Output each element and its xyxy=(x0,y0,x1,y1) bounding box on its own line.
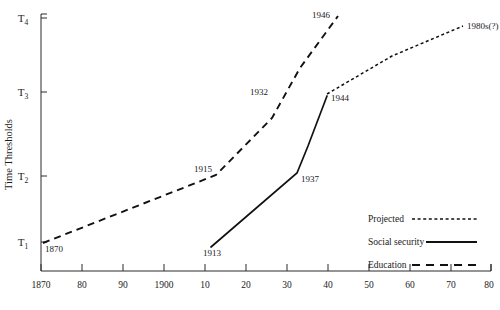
x-tick-label-5: 20 xyxy=(241,280,251,290)
x-tick-label-7: 40 xyxy=(323,280,333,290)
point-label-1915: 1915 xyxy=(194,164,213,174)
x-tick-label-9: 60 xyxy=(405,280,415,290)
y-tick-group: T4 T3 T2 T1 xyxy=(18,12,47,251)
x-tick-label-4: 10 xyxy=(200,280,210,290)
x-tick-label-0: 1870 xyxy=(32,280,51,290)
legend-item-education: Education xyxy=(368,260,477,270)
series-line-social-security xyxy=(211,96,327,247)
legend: Projected Social security Education xyxy=(368,214,477,270)
x-tick-label-6: 30 xyxy=(282,280,292,290)
point-label-1870: 1870 xyxy=(45,244,64,254)
x-tick-group: 1870 80 90 1900 10 20 30 40 50 60 70 80 xyxy=(32,264,495,290)
legend-label-education: Education xyxy=(368,260,407,270)
series-line-education xyxy=(43,16,338,243)
x-tick-label-1: 80 xyxy=(77,280,87,290)
x-tick-label-11: 80 xyxy=(484,280,494,290)
point-label-1980s: 1980s(?) xyxy=(467,21,499,31)
legend-label-social-security: Social security xyxy=(368,237,424,247)
legend-label-projected: Projected xyxy=(368,214,404,224)
y-tick-label-t3: T3 xyxy=(18,86,29,101)
series-line-projected xyxy=(327,26,463,94)
x-tick-label-3: 1900 xyxy=(155,280,174,290)
point-label-1944: 1944 xyxy=(331,93,350,103)
x-tick-label-2: 90 xyxy=(118,280,128,290)
y-axis-title: Time Thresholds xyxy=(3,119,14,190)
legend-item-social-security: Social security xyxy=(368,237,477,247)
x-tick-label-10: 70 xyxy=(446,280,456,290)
point-label-group: 1870 1915 1932 1946 1913 1937 1944 1980s… xyxy=(45,10,499,258)
point-label-1946: 1946 xyxy=(312,10,331,20)
point-label-1913: 1913 xyxy=(203,248,222,258)
x-tick-label-8: 50 xyxy=(364,280,374,290)
chart-container: T4 T3 T2 T1 Time Thresholds 1870 80 90 1… xyxy=(0,0,500,310)
point-label-1937: 1937 xyxy=(301,174,320,184)
legend-item-projected: Projected xyxy=(368,214,477,224)
y-tick-label-t1: T1 xyxy=(18,236,29,251)
axis-group xyxy=(41,14,491,271)
time-thresholds-line-chart: T4 T3 T2 T1 Time Thresholds 1870 80 90 1… xyxy=(0,0,500,310)
y-tick-label-t4: T4 xyxy=(18,12,29,27)
y-tick-label-t2: T2 xyxy=(18,170,29,185)
point-label-1932: 1932 xyxy=(250,87,268,97)
